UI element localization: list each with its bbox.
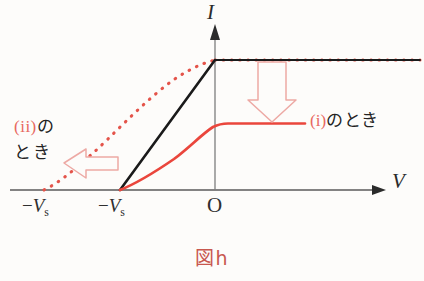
case-i-text: のとき <box>326 110 379 130</box>
origin-label: O <box>207 195 222 216</box>
annotation-case-ii: (ii)の とき <box>14 118 54 161</box>
y-axis <box>210 24 220 190</box>
x-tick-label-inner-vs: −Vs <box>98 196 125 215</box>
figure-caption: 図h <box>0 243 424 270</box>
left-arrow <box>64 149 118 178</box>
v-symbol-inner: V <box>109 195 121 216</box>
x-axis-arrowhead <box>372 185 386 195</box>
iv-characteristic-plot <box>0 0 424 281</box>
case-ii-line2: とき <box>14 144 54 161</box>
figure-container: I V O −Vs −Vs (ii)の とき (i)のとき 図h <box>0 0 424 281</box>
y-axis-arrowhead <box>210 24 220 40</box>
case-i-tag: (i) <box>310 111 326 130</box>
annotation-case-i: (i)のとき <box>310 112 379 129</box>
minus-sign-outer: − <box>22 195 33 216</box>
v-symbol-outer: V <box>33 195 45 216</box>
x-axis-label: V <box>392 171 405 192</box>
v-subscript-outer: s <box>44 206 49 219</box>
minus-sign-inner: − <box>98 195 109 216</box>
x-tick-label-outer-vs: −Vs <box>22 196 49 215</box>
case-ii-line1-text: の <box>37 116 55 136</box>
curve-case-i-red <box>120 124 305 191</box>
case-ii-line1: (ii)の <box>14 116 54 136</box>
y-axis-label: I <box>207 2 214 23</box>
case-ii-tag: (ii) <box>14 117 37 136</box>
v-subscript-inner: s <box>120 206 125 219</box>
down-arrow <box>248 62 296 122</box>
x-axis <box>10 185 386 195</box>
